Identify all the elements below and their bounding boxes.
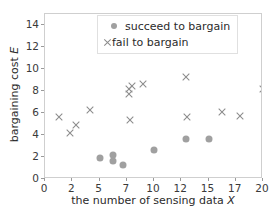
x-tick-label: 17 bbox=[228, 182, 241, 194]
y-tick-label: 10 bbox=[26, 62, 39, 74]
data-point-fail bbox=[126, 115, 135, 124]
scatter-chart-figure: 02571012151720 02468101214 the number of… bbox=[0, 0, 274, 216]
x-axis-label-text: the number of sensing data bbox=[71, 194, 227, 207]
x-tick-label: 5 bbox=[95, 182, 102, 194]
legend-item-fail: fail to bargain bbox=[103, 35, 230, 49]
y-axis-label-text: bargaining cost bbox=[8, 54, 21, 143]
x-axis-label: the number of sensing data X bbox=[44, 194, 262, 207]
data-point-fail bbox=[128, 81, 137, 90]
y-tick-mark bbox=[41, 46, 44, 47]
data-point-fail bbox=[259, 84, 262, 93]
legend-item-succeed: succeed to bargain bbox=[103, 19, 230, 33]
data-point-fail bbox=[139, 80, 148, 89]
x-tick-label: 15 bbox=[201, 182, 214, 194]
x-tick-mark bbox=[71, 178, 72, 181]
y-axis-label: bargaining cost E bbox=[8, 15, 21, 175]
x-tick-mark bbox=[99, 178, 100, 181]
y-tick-label: 6 bbox=[32, 106, 39, 118]
data-point-fail bbox=[65, 128, 74, 137]
x-tick-mark bbox=[235, 178, 236, 181]
y-tick-label: 12 bbox=[26, 40, 39, 52]
data-point-succeed bbox=[110, 158, 117, 165]
x-axis-label-symbol: X bbox=[227, 194, 235, 207]
y-tick-mark bbox=[41, 90, 44, 91]
x-tick-label: 7 bbox=[122, 182, 129, 194]
data-point-fail bbox=[71, 121, 80, 130]
data-point-fail bbox=[236, 112, 245, 121]
legend-label-fail: fail to bargain bbox=[112, 36, 189, 49]
x-tick-mark bbox=[126, 178, 127, 181]
y-tick-label: 14 bbox=[26, 18, 39, 30]
y-tick-label: 4 bbox=[32, 128, 39, 140]
y-tick-mark bbox=[41, 112, 44, 113]
data-point-succeed bbox=[182, 136, 189, 143]
y-tick-mark bbox=[41, 68, 44, 69]
data-point-fail bbox=[125, 90, 134, 99]
legend-label-succeed: succeed to bargain bbox=[125, 20, 230, 33]
y-tick-label: 8 bbox=[32, 84, 39, 96]
x-tick-mark bbox=[208, 178, 209, 181]
y-axis-label-symbol: E bbox=[8, 47, 21, 54]
x-tick-label: 20 bbox=[255, 182, 268, 194]
x-tick-label: 10 bbox=[146, 182, 159, 194]
data-point-succeed bbox=[119, 161, 126, 168]
data-point-succeed bbox=[96, 155, 103, 162]
legend-cross-marker-icon bbox=[103, 38, 112, 47]
chart-legend: succeed to bargain fail to bargain bbox=[97, 15, 238, 54]
x-tick-label: 0 bbox=[41, 182, 48, 194]
y-tick-mark bbox=[41, 24, 44, 25]
legend-circle-marker-icon bbox=[103, 23, 125, 29]
data-point-succeed bbox=[151, 147, 158, 154]
x-tick-label: 12 bbox=[174, 182, 187, 194]
data-point-fail bbox=[182, 113, 191, 122]
y-tick-mark bbox=[41, 178, 44, 179]
x-tick-mark bbox=[180, 178, 181, 181]
data-point-fail bbox=[181, 72, 190, 81]
x-tick-mark bbox=[262, 178, 263, 181]
x-tick-mark bbox=[153, 178, 154, 181]
data-point-fail bbox=[86, 105, 95, 114]
y-tick-mark bbox=[41, 134, 44, 135]
x-tick-label: 2 bbox=[68, 182, 75, 194]
y-tick-label: 0 bbox=[32, 172, 39, 184]
data-point-succeed bbox=[205, 136, 212, 143]
y-tick-label: 2 bbox=[32, 150, 39, 162]
y-tick-mark bbox=[41, 156, 44, 157]
data-point-fail bbox=[54, 113, 63, 122]
data-point-fail bbox=[218, 107, 227, 116]
x-tick-mark bbox=[44, 178, 45, 181]
